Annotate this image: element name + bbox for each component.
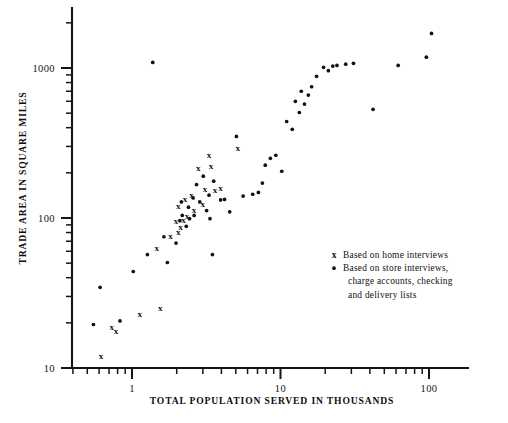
data-point-dot bbox=[219, 198, 223, 202]
axes-layer bbox=[61, 8, 468, 379]
data-point-dot bbox=[212, 179, 216, 183]
y-tick-label: 1000 bbox=[32, 63, 55, 74]
data-point-dot bbox=[184, 224, 188, 228]
data-point-x: x bbox=[213, 185, 218, 195]
data-point-dot bbox=[263, 163, 267, 167]
data-point-dot bbox=[208, 217, 212, 221]
data-point-dot bbox=[331, 64, 335, 68]
data-point-dot bbox=[430, 32, 434, 36]
data-point-dot bbox=[98, 285, 102, 289]
scatter-plot-svg: xxxxxxxxxxxxxxxxxxxxxxxx 110100101001000… bbox=[0, 0, 508, 423]
data-point-dot bbox=[299, 89, 303, 93]
y-axis-title: TRADE AREA IN SQUARE MILES bbox=[17, 92, 28, 265]
axis-spines bbox=[72, 8, 468, 368]
data-point-dot bbox=[162, 235, 166, 239]
data-point-dot bbox=[280, 169, 284, 173]
legend: xBased on home interviewsBased on store … bbox=[332, 250, 453, 300]
chart-figure: xxxxxxxxxxxxxxxxxxxxxxxx 110100101001000… bbox=[0, 0, 508, 423]
data-point-dot bbox=[251, 192, 255, 196]
data-point-x: x bbox=[155, 243, 160, 253]
data-point-dot bbox=[290, 127, 294, 131]
data-point-dot bbox=[326, 69, 330, 73]
axis-labels-layer: 110100101001000TOTAL POPULATION SERVED I… bbox=[17, 63, 437, 406]
data-point-dot bbox=[306, 93, 310, 97]
legend-label: charge accounts, checking bbox=[348, 276, 453, 286]
data-point-dot bbox=[285, 120, 289, 124]
data-point-x: x bbox=[138, 309, 143, 319]
data-point-dot bbox=[294, 99, 298, 103]
data-point-x: x bbox=[207, 150, 212, 160]
data-point-dot bbox=[211, 253, 215, 257]
data-point-dot bbox=[180, 200, 184, 204]
data-point-dot bbox=[425, 55, 429, 59]
series-home-interviews: xxxxxxxxxxxxxxxxxxxxxxxx bbox=[99, 143, 241, 362]
data-point-dot bbox=[192, 214, 196, 218]
data-point-x: x bbox=[168, 231, 173, 241]
data-point-dot-faint bbox=[151, 61, 154, 64]
data-point-dot bbox=[303, 102, 307, 106]
y-tick-label: 10 bbox=[44, 363, 55, 374]
data-point-dot bbox=[241, 194, 245, 198]
data-point-dot bbox=[269, 156, 273, 160]
data-points-layer: xxxxxxxxxxxxxxxxxxxxxxxx bbox=[92, 32, 434, 362]
data-point-x: x bbox=[218, 183, 223, 193]
data-point-x: x bbox=[114, 326, 119, 336]
data-point-dot bbox=[191, 196, 195, 200]
legend-label: and delivery lists bbox=[348, 290, 417, 300]
data-point-dot bbox=[180, 214, 184, 218]
data-point-dot bbox=[335, 64, 339, 68]
x-tick-label: 100 bbox=[421, 383, 438, 394]
data-point-dot bbox=[396, 64, 400, 68]
legend-label: Based on store interviews, bbox=[343, 263, 448, 273]
legend-marker-dot bbox=[332, 266, 336, 270]
data-point-dot bbox=[371, 108, 375, 112]
data-point-dot bbox=[344, 62, 348, 66]
data-point-dot bbox=[131, 270, 135, 274]
data-point-dot bbox=[188, 217, 192, 221]
data-point-dot bbox=[195, 183, 199, 187]
data-point-x: x bbox=[203, 184, 208, 194]
data-point-x: x bbox=[201, 199, 206, 209]
legend-label: Based on home interviews bbox=[343, 250, 448, 260]
data-point-dot bbox=[228, 210, 232, 214]
x-axis-title: TOTAL POPULATION SERVED IN THOUSANDS bbox=[150, 395, 394, 406]
data-point-dot bbox=[205, 209, 209, 213]
data-point-x: x bbox=[158, 303, 163, 313]
legend-marker-x: x bbox=[332, 250, 337, 260]
y-tick-label: 100 bbox=[38, 213, 55, 224]
data-point-dot bbox=[257, 191, 261, 195]
data-point-dot bbox=[235, 135, 239, 139]
data-point-dot bbox=[315, 74, 319, 78]
data-point-dot bbox=[352, 61, 356, 65]
data-point-dot bbox=[310, 85, 314, 89]
data-point-x: x bbox=[183, 194, 188, 204]
data-point-dot bbox=[201, 174, 205, 178]
data-point-dot bbox=[198, 200, 202, 204]
x-tick-label: 1 bbox=[129, 383, 135, 394]
data-point-x: x bbox=[235, 143, 240, 153]
data-point-x: x bbox=[99, 351, 104, 361]
data-point-dot bbox=[261, 181, 265, 185]
data-point-dot bbox=[118, 319, 122, 323]
data-point-x: x bbox=[192, 205, 197, 215]
data-point-dot bbox=[298, 111, 302, 115]
data-point-dot bbox=[274, 153, 278, 157]
data-point-dot bbox=[174, 241, 178, 245]
data-point-x: x bbox=[174, 216, 179, 226]
data-point-dot bbox=[178, 219, 182, 223]
data-point-x: x bbox=[209, 161, 214, 171]
data-point-dot bbox=[146, 253, 150, 257]
data-point-dot bbox=[207, 193, 211, 197]
x-tick-label: 10 bbox=[275, 383, 286, 394]
data-point-dot bbox=[187, 205, 191, 209]
data-point-dot bbox=[223, 198, 227, 202]
data-point-x: x bbox=[196, 163, 201, 173]
data-point-dot bbox=[92, 323, 96, 327]
data-point-dot bbox=[165, 261, 169, 265]
data-point-dot bbox=[322, 66, 326, 70]
